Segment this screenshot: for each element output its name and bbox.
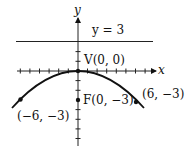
focus-label: F(0, −3) xyxy=(83,93,134,107)
vertex-point xyxy=(76,69,80,73)
left-point-label: (−6, −3) xyxy=(17,109,69,123)
right-point xyxy=(134,100,138,104)
vertex-label: V(0, 0) xyxy=(83,53,125,67)
focus-point xyxy=(76,98,80,102)
y-axis-label: y xyxy=(73,3,81,17)
parabola-diagram: y = 3 x y V(0, 0) F(0, −3) (−6, xyxy=(0,0,188,158)
left-point xyxy=(18,97,22,101)
right-point-label: (6, −3) xyxy=(142,87,184,101)
x-axis-label: x xyxy=(158,63,165,77)
directrix-label: y = 3 xyxy=(91,23,124,37)
